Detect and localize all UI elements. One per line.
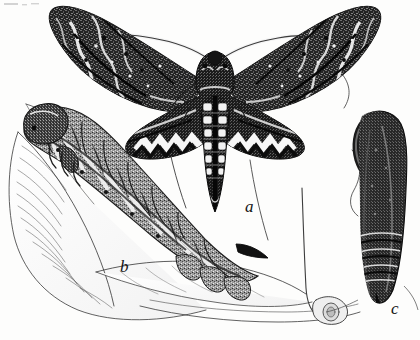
engraving-canvas <box>0 0 420 340</box>
figure-label-c: c <box>391 300 399 317</box>
moth-head <box>208 51 222 65</box>
larva-head <box>24 104 68 144</box>
figure-label-b: b <box>120 258 129 275</box>
illustration-plate: a b c <box>0 0 420 340</box>
moth-eye-left <box>203 64 208 69</box>
moth-eye-right <box>223 64 228 69</box>
figure-label-a: a <box>245 198 254 215</box>
